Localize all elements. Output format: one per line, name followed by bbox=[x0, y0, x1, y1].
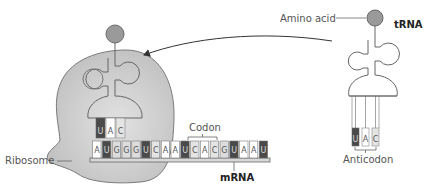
ribosome-label: Ribosome bbox=[5, 155, 54, 166]
bound-amino-acid-circle bbox=[106, 25, 124, 43]
mrna-nucleotide-letter: C bbox=[192, 146, 198, 155]
anticodon-label: Anticodon bbox=[343, 154, 393, 165]
mrna-nucleotide-letter: A bbox=[202, 146, 208, 155]
translation-diagram: U A C AUGGGUCAAUCACGUAAU Codon Ribosome … bbox=[0, 0, 431, 189]
mrna-nucleotide-letter: A bbox=[173, 146, 179, 155]
ribosome-body bbox=[47, 50, 174, 183]
mrna-nucleotide-letter: C bbox=[212, 146, 218, 155]
anticodon-bracket bbox=[355, 147, 376, 150]
mrna-strand: AUGGGUCAAUCACGUAAU bbox=[90, 141, 270, 162]
free-trna-body bbox=[348, 40, 399, 96]
mrna-nucleotide-letter: G bbox=[133, 146, 139, 155]
codon-label: Codon bbox=[189, 122, 221, 133]
bound-trna-anticodon: U A C bbox=[96, 118, 125, 138]
mrna-nucleotide-letter: A bbox=[94, 146, 100, 155]
mrna-nucleotide-letter: G bbox=[123, 146, 129, 155]
mrna-nucleotide-letter: U bbox=[261, 146, 267, 155]
ribosome bbox=[47, 50, 174, 183]
amino-acid-label: Amino acid bbox=[280, 13, 336, 24]
mrna-nucleotide-letter: A bbox=[241, 146, 247, 155]
movement-arrow bbox=[144, 36, 332, 55]
mrna-nucleotide-letter: U bbox=[104, 146, 110, 155]
free-anticodon-letter-3: C bbox=[373, 135, 379, 144]
mrna-backbone bbox=[90, 158, 270, 162]
bound-anticodon-letter-2: A bbox=[108, 127, 114, 136]
mrna-nucleotide-letter: G bbox=[113, 146, 119, 155]
mrna-nucleotide-letter: C bbox=[153, 146, 159, 155]
free-amino-acid-circle bbox=[367, 10, 383, 26]
trna-label: tRNA bbox=[394, 19, 423, 30]
free-trna: Amino acid tRNA U A C Anticodon bbox=[280, 10, 423, 165]
free-anticodon-letter-1: U bbox=[353, 135, 359, 144]
free-trna-anticodon: U A C bbox=[352, 96, 379, 146]
mrna-nucleotide-letter: A bbox=[251, 146, 257, 155]
free-anticodon-letter-2: A bbox=[363, 135, 369, 144]
mrna-nucleotide-letter: U bbox=[231, 146, 237, 155]
codon-bracket: Codon bbox=[188, 122, 221, 140]
mrna-nucleotides: AUGGGUCAAUCACGUAAU bbox=[93, 141, 268, 158]
mrna-nucleotide-letter: U bbox=[182, 146, 188, 155]
mrna-nucleotide-letter: G bbox=[221, 146, 227, 155]
mrna-label: mRNA bbox=[220, 172, 254, 183]
bound-anticodon-letter-1: U bbox=[98, 127, 104, 136]
mrna-nucleotide-letter: A bbox=[163, 146, 169, 155]
bound-anticodon-letter-3: C bbox=[118, 127, 124, 136]
mrna-nucleotide-letter: U bbox=[143, 146, 149, 155]
